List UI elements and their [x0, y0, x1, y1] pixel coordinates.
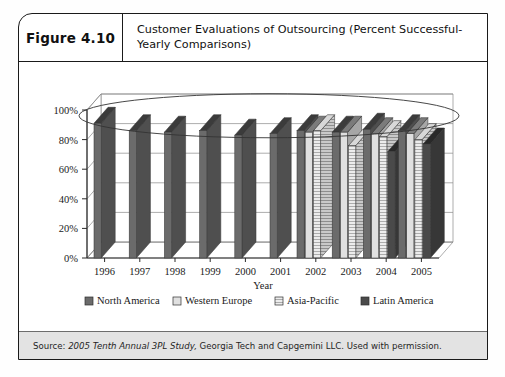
- figure-title-box: Customer Evaluations of Outsourcing (Per…: [123, 14, 487, 61]
- page-title: Customer Evaluations of Outsourcing (Per…: [137, 23, 475, 52]
- x-axis-tick-label: 1999: [200, 266, 221, 277]
- bar-2002-western_europe[interactable]: [305, 132, 312, 258]
- bar-2003-western_europe[interactable]: [340, 132, 347, 258]
- x-axis-tick-label: 2004: [376, 266, 398, 277]
- legend-label-north_america: North America: [97, 295, 160, 306]
- y-axis-tick-label: 40%: [59, 194, 79, 205]
- bar-side-face: [172, 116, 186, 258]
- bar-1998-north_america[interactable]: [164, 132, 171, 258]
- bar-2000-north_america[interactable]: [235, 135, 242, 258]
- figure-number-box: Figure 4.10: [19, 14, 123, 61]
- x-axis-tick-label: 2000: [235, 266, 256, 277]
- bar-2005-asia_pacific[interactable]: [415, 140, 422, 258]
- figure-page: Figure 4.10 Customer Evaluations of Outs…: [0, 0, 505, 377]
- legend-label-asia_pacific: Asia-Pacific: [287, 295, 339, 306]
- bar-side-face: [101, 107, 115, 258]
- x-axis-tick-label: 1997: [129, 266, 150, 277]
- bar-side-face: [207, 115, 221, 258]
- legend-swatch-asia_pacific: [275, 297, 283, 305]
- y-axis-tick-label: 0%: [64, 253, 78, 264]
- legend-label-latin_america: Latin America: [373, 295, 434, 306]
- bar-2003-north_america[interactable]: [332, 132, 339, 258]
- bar-2004-north_america[interactable]: [363, 129, 370, 258]
- legend-swatch-western_europe: [173, 297, 181, 305]
- bar-1997-north_america[interactable]: [129, 131, 136, 258]
- figure-frame: Figure 4.10 Customer Evaluations of Outs…: [18, 13, 488, 360]
- bar-chart: 0%20%40%60%80%100%1996199719981999200020…: [19, 62, 485, 319]
- bar-2005-western_europe[interactable]: [407, 134, 414, 258]
- bar-side-face: [242, 119, 256, 258]
- legend-swatch-latin_america: [361, 297, 369, 305]
- bar-2002-north_america[interactable]: [297, 131, 304, 258]
- bar-1996-north_america[interactable]: [94, 123, 101, 258]
- bar-2004-asia_pacific[interactable]: [380, 137, 387, 258]
- bar-2002-asia_pacific[interactable]: [313, 131, 320, 258]
- bar-2001-north_america[interactable]: [270, 134, 277, 258]
- source-prefix: Source:: [33, 341, 68, 351]
- source-remainder: Georgia Tech and Capgemini LLC. Used wit…: [197, 341, 442, 351]
- bar-2003-asia_pacific[interactable]: [349, 146, 356, 258]
- x-axis-tick-label: 2001: [270, 266, 291, 277]
- figure-header: Figure 4.10 Customer Evaluations of Outs…: [19, 14, 487, 62]
- y-axis-tick-label: 20%: [59, 223, 79, 234]
- bar-2004-latin_america[interactable]: [388, 151, 395, 258]
- bar-2005-north_america[interactable]: [399, 131, 406, 258]
- legend-label-western_europe: Western Europe: [185, 295, 252, 306]
- x-axis-tick-label: 2003: [341, 266, 362, 277]
- x-axis-tick-label: 2005: [411, 266, 432, 277]
- x-axis-tick-label: 2002: [305, 266, 326, 277]
- legend-swatch-north_america: [85, 297, 93, 305]
- x-axis-tick-label: 1996: [94, 266, 115, 277]
- bar-side-face: [430, 128, 444, 258]
- source-text: Source: 2005 Tenth Annual 3PL Study, Geo…: [33, 341, 442, 351]
- bar-2004-western_europe[interactable]: [372, 134, 379, 258]
- bar-2005-latin_america[interactable]: [423, 144, 430, 258]
- x-axis-tick-label: 1998: [165, 266, 186, 277]
- x-axis-title: Year: [253, 280, 273, 291]
- chart-plot-area: 0%20%40%60%80%100%1996199719981999200020…: [19, 62, 487, 319]
- source-study-title: 2005 Tenth Annual 3PL Study,: [68, 341, 197, 351]
- y-axis-tick-label: 80%: [59, 135, 79, 146]
- figure-number-label: Figure 4.10: [26, 30, 115, 46]
- source-footer: Source: 2005 Tenth Annual 3PL Study, Geo…: [19, 331, 487, 359]
- bar-side-face: [277, 118, 291, 258]
- y-axis-tick-label: 60%: [59, 164, 79, 175]
- y-axis-tick-label: 100%: [54, 105, 79, 116]
- bar-1999-north_america[interactable]: [200, 131, 207, 258]
- bar-side-face: [136, 115, 150, 258]
